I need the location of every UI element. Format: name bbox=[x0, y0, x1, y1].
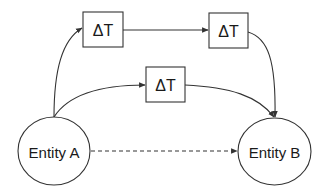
entity-a-label: Entity A bbox=[29, 144, 80, 161]
diagram-canvas: ΔT ΔT ΔT Entity A Entity B bbox=[0, 0, 329, 195]
entity-b-label: Entity B bbox=[249, 144, 301, 161]
edge-entity-a-to-delay-top-left bbox=[54, 28, 82, 117]
delay-box-top-left: ΔT bbox=[83, 12, 123, 47]
delay-label: ΔT bbox=[218, 23, 239, 40]
delay-label: ΔT bbox=[93, 22, 114, 39]
delay-box-middle: ΔT bbox=[146, 67, 185, 102]
entity-b-node: Entity B bbox=[238, 118, 311, 185]
entity-a-node: Entity A bbox=[18, 117, 90, 185]
delay-label: ΔT bbox=[155, 77, 176, 94]
edge-delay-middle-to-entity-b bbox=[185, 85, 274, 117]
edge-entity-a-to-delay-middle bbox=[54, 85, 145, 117]
delay-box-top-right: ΔT bbox=[209, 13, 248, 48]
